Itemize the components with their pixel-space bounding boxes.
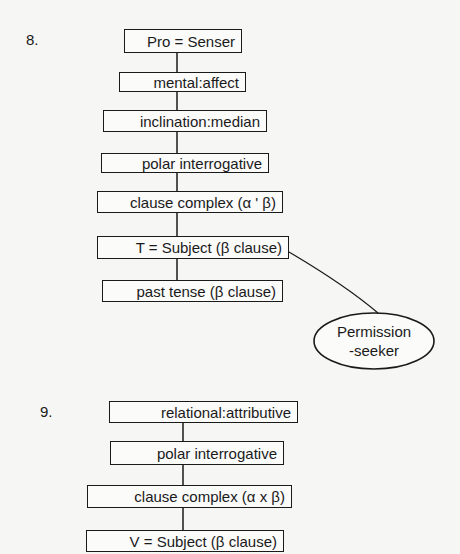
node-past-tense: past tense (β clause) xyxy=(102,280,283,302)
node-inclination-median: inclination:median xyxy=(103,110,267,132)
diagram-number: 9. xyxy=(40,403,53,420)
node-polar-interrogative: polar interrogative xyxy=(110,441,284,465)
node-polar-interrogative: polar interrogative xyxy=(101,153,269,173)
callout-line-1: Permission xyxy=(314,322,434,341)
node-pro-senser: Pro = Senser xyxy=(124,29,242,53)
node-t-subject: T = Subject (β clause) xyxy=(97,236,289,259)
node-clause-complex: clause complex (α ' β) xyxy=(97,191,283,213)
node-mental-affect: mental:affect xyxy=(119,72,246,92)
node-v-subject: V = Subject (β clause) xyxy=(86,530,284,552)
node-clause-complex: clause complex (α x β) xyxy=(87,485,292,508)
diagram-number: 8. xyxy=(26,31,39,48)
node-relational-attributive: relational:attributive xyxy=(109,401,298,423)
callout-line-2: -seeker xyxy=(314,341,434,360)
callout-permission-seeker: Permission -seeker xyxy=(314,322,434,360)
